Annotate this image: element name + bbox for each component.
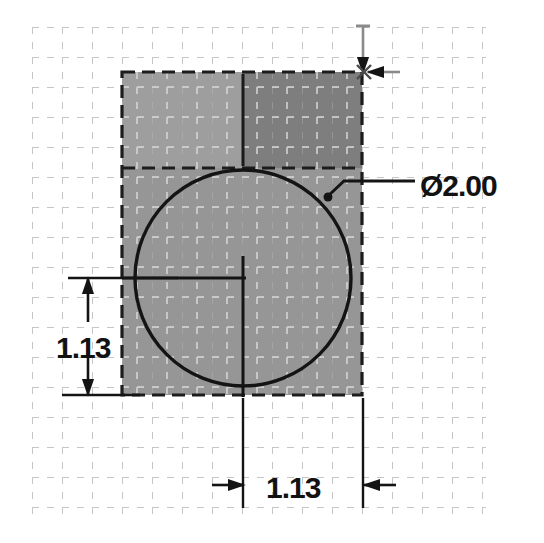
- cad-drawing-canvas: Ø2.00 1.13 1.13: [0, 0, 544, 543]
- cad-viewport: Ø2.00 1.13 1.13: [0, 0, 544, 543]
- diameter-dimension-label: Ø2.00: [420, 169, 497, 202]
- vertical-dimension-label: 1.13: [56, 331, 111, 364]
- horizontal-dimension-label: 1.13: [266, 471, 321, 504]
- diameter-leader-dot: [324, 193, 333, 202]
